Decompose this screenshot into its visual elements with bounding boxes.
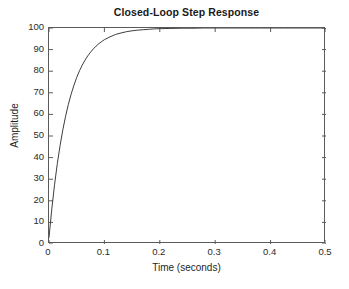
x-axis-tick-label: 0.5 — [305, 247, 345, 257]
x-axis-tick-label: 0 — [28, 247, 68, 257]
y-axis-label: Amplitude — [9, 86, 20, 166]
figure-canvas: Closed-Loop Step Response 01020304050607… — [0, 0, 349, 289]
x-axis-tick-label: 0.2 — [139, 247, 179, 257]
x-axis-label: Time (seconds) — [48, 262, 325, 273]
x-axis-tick-label: 0.4 — [250, 247, 290, 257]
x-axis-tick-label: 0.1 — [83, 247, 123, 257]
x-axis-tick-label: 0.3 — [194, 247, 234, 257]
x-axis-tick-labels: 00.10.20.30.40.5 — [0, 0, 349, 289]
